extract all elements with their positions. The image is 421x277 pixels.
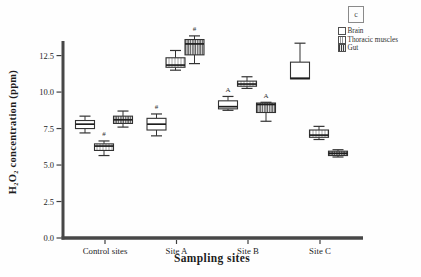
legend-label-gut: Gut [348,44,359,53]
legend-label-brain: Brain [348,27,364,36]
boxplot-gut-site-b: A [257,92,276,121]
boxplot-brain-control-sites [76,116,95,133]
y-tick-label: 12.5 [39,51,54,61]
legend-entry-thoracic-muscles: Thoracic muscles [338,36,420,45]
y-axis-label: H₂O₂ concentration (ppm) [7,22,21,242]
iqr-box [310,130,329,137]
boxplot-figure: 0.02.55.07.510.012.5Control sitesSite AS… [0,0,421,277]
y-tick-label: 7.5 [43,124,54,134]
iqr-box [219,101,238,109]
y-tick-label: 2.5 [43,197,54,207]
thoracic-muscles-swatch-icon [338,36,346,44]
boxplot-gut-site-c [329,150,348,157]
brain-swatch-icon [338,27,346,35]
iqr-box [185,40,204,55]
significance-marker: # [193,25,197,33]
significance-marker: A [225,86,230,94]
legend-label-thoracic-muscles: Thoracic muscles [348,36,399,45]
boxplot-gut-site-a: # [185,25,204,63]
iqr-box [95,144,114,151]
iqr-box [291,62,310,79]
legend-entry-gut: Gut [338,44,420,53]
x-axis-title: Sampling sites [62,252,362,264]
panel-letter: c [354,10,358,19]
boxplot-thoracic-muscles-site-c [310,126,329,139]
y-tick-label: 5.0 [43,160,54,170]
significance-marker: # [102,130,106,138]
legend-entries: Brain Thoracic muscles Gut [338,27,420,53]
y-tick-label: 0.0 [43,233,54,243]
gut-swatch-icon [338,44,346,52]
boxplot-brain-site-b: A [219,86,238,110]
legend: c Brain Thoracic muscles Gut [338,6,420,53]
boxplot-thoracic-muscles-site-a [166,50,185,70]
boxplot-thoracic-muscles-site-b [238,77,257,89]
significance-marker: # [155,103,159,111]
boxplot-thoracic-muscles-control-sites: # [95,130,114,155]
boxplot-brain-site-c [291,43,310,79]
boxplot-gut-control-sites [114,111,133,127]
significance-marker: A [263,92,268,100]
panel-letter-box: c [348,6,364,23]
legend-entry-brain: Brain [338,27,420,36]
boxplot-brain-site-a: # [147,103,166,135]
y-tick-label: 10.0 [39,87,54,97]
axes: 0.02.55.07.510.012.5Control sitesSite AS… [39,41,363,256]
